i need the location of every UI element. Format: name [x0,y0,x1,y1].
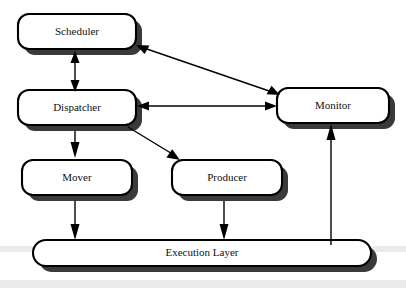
node-scheduler-label: Scheduler [55,25,99,37]
block-diagram: Scheduler Dispatcher Monitor Mover Produ… [0,0,406,288]
node-monitor-label: Monitor [315,99,351,111]
diagram-canvas: Scheduler Dispatcher Monitor Mover Produ… [0,0,406,288]
node-dispatcher[interactable]: Dispatcher [18,90,142,131]
node-scheduler[interactable]: Scheduler [18,14,142,55]
node-execution-layer[interactable]: Execution Layer [33,240,377,272]
scan-smudge-lower [0,280,406,288]
node-execution-layer-label: Execution Layer [166,246,239,258]
node-mover-label: Mover [62,171,92,183]
node-mover[interactable]: Mover [22,160,138,201]
node-monitor[interactable]: Monitor [277,88,395,129]
node-producer-label: Producer [207,171,247,183]
node-producer[interactable]: Producer [172,160,288,201]
node-dispatcher-label: Dispatcher [53,101,101,113]
